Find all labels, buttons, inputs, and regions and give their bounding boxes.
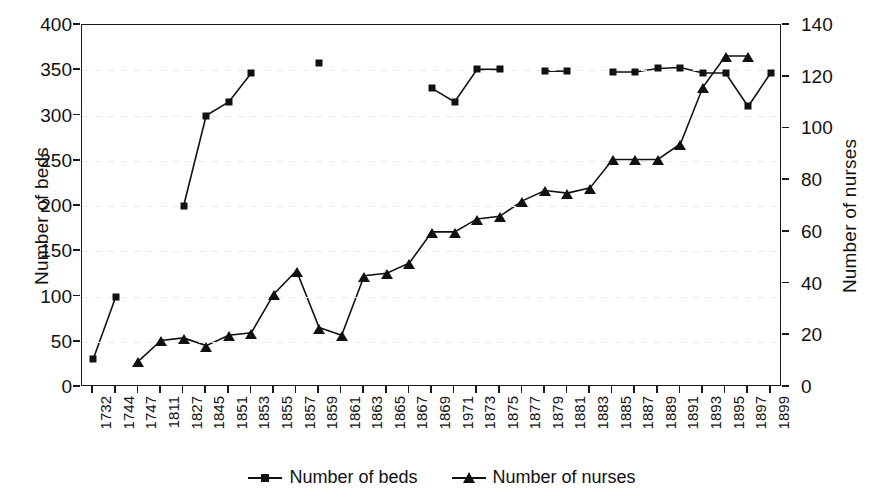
gridline (82, 70, 780, 71)
data-point-nurses (742, 52, 754, 62)
y-axis-right-tick (782, 75, 789, 77)
y-axis-left-tick (73, 340, 80, 342)
data-point-nurses (132, 357, 144, 367)
x-axis-tick-label: 1845 (211, 396, 226, 429)
x-axis-tick-label: 1867 (414, 396, 429, 429)
data-point-beds (248, 69, 255, 76)
x-axis-tick-label: 1883 (595, 396, 610, 429)
x-axis-tick (408, 386, 410, 393)
data-point-nurses (720, 52, 732, 62)
y-axis-right: 020406080100120140 (789, 24, 849, 386)
chart-figure: Number of beds Number of nurses 05010015… (0, 0, 884, 503)
x-axis-tick-label: 1827 (189, 396, 204, 429)
data-point-nurses (516, 197, 528, 207)
x-axis-tick-label: 1873 (482, 396, 497, 429)
x-axis-tick (227, 386, 229, 393)
x-axis-tick (679, 386, 681, 393)
x-axis-labels: 1732174417471811182718451851185318551857… (81, 396, 781, 460)
x-axis-tick (475, 386, 477, 393)
x-axis-tick-label: 1893 (708, 396, 723, 429)
data-point-beds (316, 60, 323, 67)
y-axis-right-tick-label: 140 (801, 15, 833, 34)
data-point-beds (225, 98, 232, 105)
data-point-nurses (539, 186, 551, 196)
y-axis-left-tick (73, 159, 80, 161)
x-axis-tick (769, 386, 771, 393)
y-axis-left-tick (73, 204, 80, 206)
x-axis-tick-label: 1877 (527, 396, 542, 429)
gridline (82, 161, 780, 162)
x-axis-tick-label: 1869 (437, 396, 452, 429)
y-axis-left-tick (73, 114, 80, 116)
x-axis-tick-label: 1859 (324, 396, 339, 429)
plot-area (81, 24, 781, 386)
x-axis-tick (746, 386, 748, 393)
y-axis-left-tick (73, 385, 80, 387)
triangle-marker-icon (452, 472, 486, 484)
x-axis-tick-label: 1895 (731, 396, 746, 429)
x-axis-tick-label: 1732 (98, 396, 113, 429)
data-point-beds (632, 69, 639, 76)
data-point-beds (609, 69, 616, 76)
data-point-beds (429, 85, 436, 92)
y-axis-left-tick-label: 0 (61, 377, 72, 396)
x-axis-tick (588, 386, 590, 393)
x-axis-tick (250, 386, 252, 393)
x-axis-tick (204, 386, 206, 393)
x-axis-tick (91, 386, 93, 393)
x-axis-tick-label: 1855 (279, 396, 294, 429)
y-axis-left-tick-label: 300 (40, 105, 72, 124)
data-point-beds (451, 98, 458, 105)
x-axis-tick (453, 386, 455, 393)
data-point-beds (745, 103, 752, 110)
data-point-beds (654, 65, 661, 72)
x-axis-tick-label: 1865 (392, 396, 407, 429)
x-axis-tick-label: 1881 (572, 396, 587, 429)
y-axis-left-tick-label: 250 (40, 150, 72, 169)
y-axis-right-tick-label: 120 (801, 66, 833, 85)
data-point-beds (474, 66, 481, 73)
data-point-nurses (313, 324, 325, 334)
data-point-beds (564, 68, 571, 75)
data-point-beds (203, 112, 210, 119)
y-axis-right-tick (782, 178, 789, 180)
x-axis-tick (114, 386, 116, 393)
y-axis-right-tick (782, 23, 789, 25)
x-axis-tick-label: 1891 (685, 396, 700, 429)
data-point-nurses (697, 83, 709, 93)
x-axis-tick (701, 386, 703, 393)
y-axis-right-tick-label: 60 (801, 221, 822, 240)
legend-label-nurses: Number of nurses (493, 467, 636, 488)
data-point-nurses (607, 155, 619, 165)
data-point-nurses (471, 215, 483, 225)
data-point-beds (496, 66, 503, 73)
data-point-beds (90, 355, 97, 362)
series-line-beds (432, 69, 500, 102)
y-axis-right-tick (782, 282, 789, 284)
x-axis-tick-label: 1887 (640, 396, 655, 429)
x-axis-tick-label: 1744 (121, 396, 136, 429)
data-point-nurses (449, 228, 461, 238)
x-axis-tick-label: 1747 (143, 396, 158, 429)
y-axis-left-tick-label: 50 (51, 331, 72, 350)
data-point-beds (699, 69, 706, 76)
data-point-nurses (494, 212, 506, 222)
x-axis-tick (566, 386, 568, 393)
y-axis-right-tick-label: 20 (801, 325, 822, 344)
x-axis-tick-label: 1897 (753, 396, 768, 429)
x-axis-tick-label: 1899 (776, 396, 791, 429)
x-axis-tick (611, 386, 613, 393)
y-axis-right-tick (782, 127, 789, 129)
data-point-nurses (584, 184, 596, 194)
x-axis-tick-label: 1971 (460, 396, 475, 429)
x-axis-tick (137, 386, 139, 393)
data-point-nurses (223, 331, 235, 341)
x-axis-tick (543, 386, 545, 393)
data-point-nurses (358, 272, 370, 282)
y-axis-left-tick (73, 23, 80, 25)
y-axis-right-tick (782, 230, 789, 232)
x-axis-tick (317, 386, 319, 393)
data-point-nurses (652, 155, 664, 165)
y-axis-right-tick (782, 385, 789, 387)
x-axis-ticks (81, 386, 781, 394)
